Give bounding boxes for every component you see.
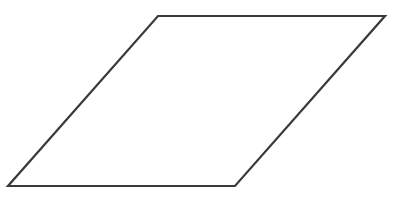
diagram-canvas [0, 0, 398, 213]
parallelogram-shape [8, 16, 385, 186]
parallelogram-figure [0, 0, 398, 213]
